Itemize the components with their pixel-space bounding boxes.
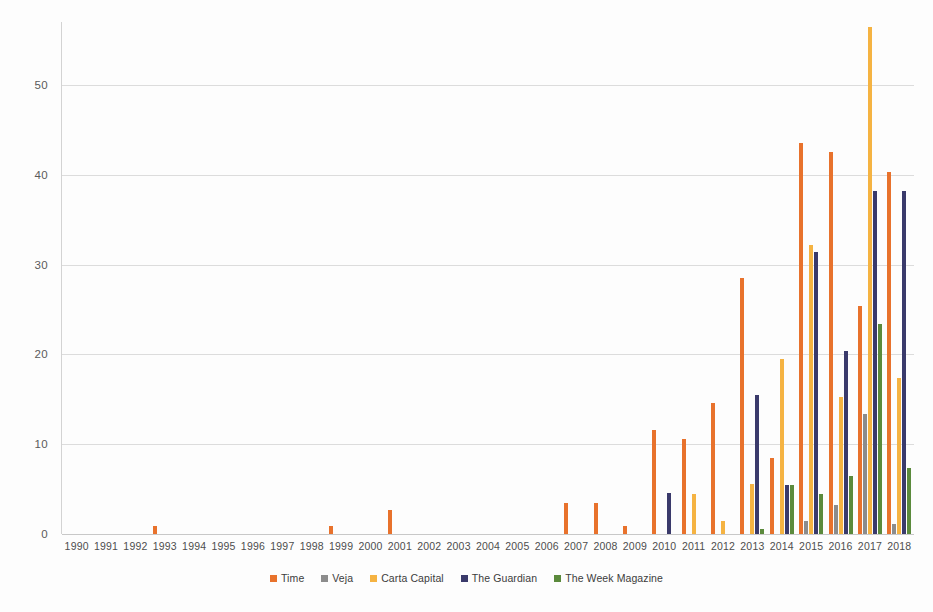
x-axis-tick-label: 1993 xyxy=(153,540,177,552)
bar xyxy=(755,395,759,534)
bar-group xyxy=(238,22,267,534)
legend-item[interactable]: The Guardian xyxy=(461,572,537,584)
y-axis-tick-label: 0 xyxy=(0,528,48,540)
bar-group xyxy=(150,22,179,534)
bar-group xyxy=(620,22,649,534)
x-axis-tick-label: 2012 xyxy=(711,540,735,552)
bar xyxy=(819,494,823,534)
bar xyxy=(711,403,715,534)
y-axis-tick-label: 20 xyxy=(0,348,48,360)
bar xyxy=(902,191,906,534)
plot-area xyxy=(62,22,914,534)
legend-label: The Guardian xyxy=(472,572,537,584)
bar-group xyxy=(121,22,150,534)
bar-group xyxy=(591,22,620,534)
x-axis-tick-label: 2000 xyxy=(358,540,382,552)
bar-group xyxy=(385,22,414,534)
x-axis-tick-label: 1999 xyxy=(329,540,353,552)
bar xyxy=(594,503,598,534)
bar xyxy=(790,485,794,534)
bar xyxy=(814,252,818,534)
bar-group xyxy=(356,22,385,534)
bar xyxy=(907,468,911,534)
bar-group xyxy=(708,22,737,534)
x-axis-tick-label: 2007 xyxy=(564,540,588,552)
legend-label: The Week Magazine xyxy=(565,572,663,584)
legend-label: Veja xyxy=(332,572,353,584)
x-axis-tick-label: 2008 xyxy=(593,540,617,552)
gridline xyxy=(62,534,914,535)
bar xyxy=(834,505,838,534)
bar xyxy=(804,521,808,534)
legend-swatch-icon xyxy=(270,575,277,582)
bar xyxy=(760,529,764,534)
x-axis-tick-label: 2004 xyxy=(476,540,500,552)
bar-group xyxy=(415,22,444,534)
x-axis-tick-label: 2009 xyxy=(623,540,647,552)
bar xyxy=(682,439,686,534)
legend-item[interactable]: Time xyxy=(270,572,304,584)
bar-group xyxy=(91,22,120,534)
legend-swatch-icon xyxy=(321,575,328,582)
bar xyxy=(849,476,853,534)
legend-swatch-icon xyxy=(554,575,561,582)
x-axis-tick-label: 2011 xyxy=(682,540,705,552)
bar-group xyxy=(473,22,502,534)
bar xyxy=(809,245,813,534)
bars-layer xyxy=(62,22,914,534)
bar xyxy=(750,484,754,534)
x-axis-tick-label: 2018 xyxy=(887,540,911,552)
bar xyxy=(839,397,843,534)
y-axis-tick-label: 30 xyxy=(0,259,48,271)
legend-swatch-icon xyxy=(461,575,468,582)
x-axis-tick-label: 2015 xyxy=(799,540,823,552)
bar xyxy=(388,510,392,534)
bar-group xyxy=(885,22,914,534)
x-axis-tick-label: 2001 xyxy=(388,540,412,552)
bar xyxy=(780,359,784,534)
bar xyxy=(799,143,803,534)
x-axis-tick-label: 1998 xyxy=(300,540,324,552)
x-axis-tick-label: 1991 xyxy=(94,540,118,552)
bar xyxy=(868,27,872,535)
bar xyxy=(858,306,862,534)
legend-label: Carta Capital xyxy=(381,572,444,584)
bar-group xyxy=(180,22,209,534)
bar xyxy=(873,191,877,534)
bar xyxy=(153,526,157,534)
x-axis-tick-label: 2005 xyxy=(505,540,529,552)
bar xyxy=(770,458,774,534)
bar-group xyxy=(268,22,297,534)
legend-label: Time xyxy=(281,572,304,584)
x-axis-tick-label: 2006 xyxy=(535,540,559,552)
bar xyxy=(667,493,671,534)
x-axis-tick-label: 1996 xyxy=(241,540,265,552)
y-axis-tick-label: 10 xyxy=(0,438,48,450)
bar-group xyxy=(855,22,884,534)
bar-group xyxy=(650,22,679,534)
legend-item[interactable]: Carta Capital xyxy=(370,572,444,584)
bar-group xyxy=(561,22,590,534)
legend-swatch-icon xyxy=(370,575,377,582)
bar-group xyxy=(62,22,91,534)
x-axis-tick-label: 2014 xyxy=(770,540,794,552)
x-axis-tick-label: 1992 xyxy=(123,540,147,552)
bar xyxy=(878,324,882,534)
bar xyxy=(652,430,656,534)
x-axis-tick-label: 2010 xyxy=(652,540,676,552)
x-axis-tick-label: 2003 xyxy=(447,540,471,552)
bar xyxy=(329,526,333,534)
bar-group xyxy=(444,22,473,534)
bar-group xyxy=(826,22,855,534)
x-axis-tick-label: 2016 xyxy=(828,540,852,552)
x-axis-tick-label: 2013 xyxy=(740,540,764,552)
x-axis-tick-label: 2002 xyxy=(417,540,441,552)
bar xyxy=(721,521,725,534)
bar xyxy=(892,524,896,534)
legend-item[interactable]: Veja xyxy=(321,572,353,584)
legend-item[interactable]: The Week Magazine xyxy=(554,572,663,584)
bar-chart: 01020304050 1990199119921993199419951996… xyxy=(0,0,933,612)
bar xyxy=(887,172,891,534)
y-axis-tick-label: 50 xyxy=(0,79,48,91)
bar-group xyxy=(532,22,561,534)
